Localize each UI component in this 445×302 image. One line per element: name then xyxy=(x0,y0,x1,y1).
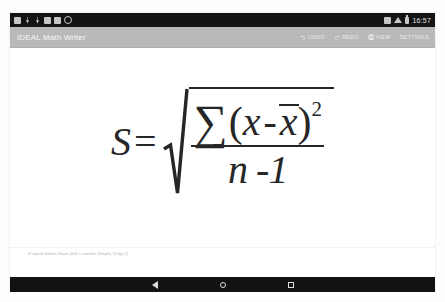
sync-icon xyxy=(64,16,72,24)
sd-card-icon xyxy=(44,17,51,24)
settings-button[interactable]: SETTINGS xyxy=(400,34,429,40)
status-bar-clock: 16:57 xyxy=(412,17,431,24)
eye-icon xyxy=(368,34,374,40)
formula-expression: S = ∑ ( xyxy=(111,87,334,197)
app-bar-actions: UNDO REDO xyxy=(300,34,429,40)
nav-recents-button[interactable] xyxy=(285,279,297,291)
exponent-two: 2 xyxy=(312,99,323,120)
fraction-denominator: n -1 xyxy=(226,147,289,190)
variable-x: x xyxy=(243,102,261,142)
caption-text: S equals Edition Exam (left) x overline … xyxy=(28,252,358,257)
app-title: IDEAL Math Writer xyxy=(17,33,86,42)
undo-icon xyxy=(300,34,306,40)
screenshot-icon xyxy=(14,17,21,24)
minus-sign: - xyxy=(263,102,276,142)
radical-sign-icon xyxy=(163,87,189,197)
home-circle-icon xyxy=(220,282,226,288)
document-canvas[interactable]: S = ∑ ( xyxy=(10,48,435,277)
undo-label: UNDO xyxy=(308,34,325,40)
battery-icon xyxy=(405,17,409,24)
recents-square-icon xyxy=(288,282,294,288)
caption-divider xyxy=(10,247,435,248)
close-paren: ) xyxy=(298,101,312,143)
download-icon xyxy=(24,17,31,24)
download-icon xyxy=(34,17,41,24)
formula-lhs: S xyxy=(111,122,131,162)
view-label: VIEW xyxy=(376,34,391,40)
back-triangle-icon xyxy=(152,281,158,289)
formula-equals: = xyxy=(134,122,157,162)
view-button[interactable]: VIEW xyxy=(368,34,391,40)
photo-page: 16:57 IDEAL Math Writer UNDO xyxy=(0,0,445,302)
fraction: ∑ ( x - x ) 2 n -1 xyxy=(191,101,324,191)
redo-label: REDO xyxy=(342,34,359,40)
android-nav-bar xyxy=(10,277,435,292)
summation-symbol: ∑ xyxy=(193,103,227,140)
redo-button[interactable]: REDO xyxy=(334,34,359,40)
settings-label: SETTINGS xyxy=(400,34,429,40)
bluetooth-icon xyxy=(384,17,391,24)
nav-back-button[interactable] xyxy=(149,279,161,291)
open-paren: ( xyxy=(229,101,243,143)
device-screen: 16:57 IDEAL Math Writer UNDO xyxy=(10,13,435,292)
nav-home-button[interactable] xyxy=(217,279,229,291)
status-bar-right-icons: 16:57 xyxy=(384,17,431,24)
square-root: ∑ ( x - x ) 2 n -1 xyxy=(163,87,334,197)
undo-button[interactable]: UNDO xyxy=(300,34,325,40)
page-bottom-margin xyxy=(0,292,445,302)
x-bar-mean: x xyxy=(280,101,298,142)
status-bar: 16:57 xyxy=(10,13,435,27)
radicand: ∑ ( x - x ) 2 n -1 xyxy=(189,87,334,197)
math-formula[interactable]: S = ∑ ( xyxy=(10,62,435,222)
app-bar: IDEAL Math Writer UNDO xyxy=(10,27,435,48)
fraction-numerator: ∑ ( x - x ) 2 xyxy=(191,101,324,145)
wifi-icon xyxy=(394,17,402,23)
status-bar-left-icons xyxy=(14,16,72,24)
redo-icon xyxy=(334,34,340,40)
sd-card-icon xyxy=(54,17,61,24)
